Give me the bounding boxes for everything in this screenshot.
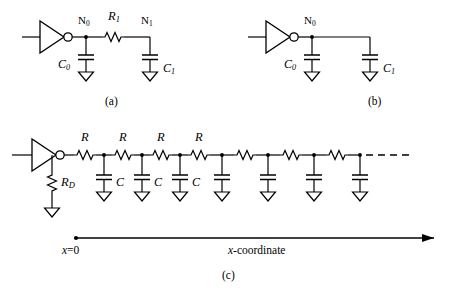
ladder-resistor-7: [326, 151, 348, 160]
ground-c1-a: [143, 72, 158, 81]
caption-a: (a): [105, 96, 118, 108]
ladder-ground-3: [173, 192, 188, 201]
ground-c0-a: [79, 72, 94, 81]
ladder-ground-4: [215, 192, 230, 201]
label-node-n0-a: N0: [78, 15, 90, 28]
ladder-capacitor-6: [306, 175, 322, 180]
ground-c1-b: [363, 72, 378, 81]
label-ladder-resistor-3: R: [157, 131, 165, 144]
label-capacitor-c0-a: C0: [58, 58, 70, 72]
label-ladder-resistor-2: R: [119, 131, 127, 144]
capacitor-c0-b: [304, 55, 320, 60]
capacitor-c1-b: [362, 55, 378, 60]
ladder-capacitor-4: [214, 175, 230, 180]
label-x-coordinate: x-coordinate: [228, 245, 285, 257]
ladder-ground-7: [353, 192, 368, 201]
resistor-r1-a: [102, 33, 124, 42]
subfigure-b: [248, 21, 378, 81]
ladder-capacitor-7: [352, 175, 368, 180]
label-ladder-resistor-4: R: [195, 131, 203, 144]
inverter-a: [40, 21, 72, 53]
ladder-ground-6: [307, 192, 322, 201]
label-ladder-capacitor-3: C: [192, 176, 200, 188]
ladder-resistor-3: [150, 151, 172, 160]
subfigure-a: [22, 21, 158, 81]
label-capacitor-c1-a: C1: [163, 62, 175, 76]
label-resistor-r1-a: R1: [108, 10, 120, 24]
ladder-ground-2: [135, 192, 150, 201]
caption-c: (c): [222, 270, 235, 282]
ladder-resistor-5: [234, 151, 256, 160]
caption-b: (b): [368, 96, 381, 108]
label-node-n1-a: N1: [141, 15, 153, 28]
inverter-c: [32, 139, 64, 171]
ladder-ground-5: [261, 192, 276, 201]
label-node-n0-b: N0: [304, 15, 316, 28]
inverter-b: [266, 21, 298, 53]
ladder-capacitor-2: [134, 175, 150, 180]
ladder-resistor-6: [280, 151, 302, 160]
label-capacitor-c1-b: C1: [383, 62, 395, 76]
x-axis-arrowhead: [422, 234, 434, 242]
ground-c0-b: [305, 72, 320, 81]
capacitor-c1-a: [142, 55, 158, 60]
label-ladder-capacitor-1: C: [116, 176, 124, 188]
capacitor-c0-a: [78, 55, 94, 60]
ladder-ground-1: [97, 192, 112, 201]
ladder-resistor-1: [74, 151, 96, 160]
ladder-resistor-4: [188, 151, 210, 160]
subfigure-c: [12, 139, 434, 242]
label-axis-origin: x=0: [62, 245, 79, 257]
label-capacitor-c0-b: C0: [284, 58, 296, 72]
ladder-capacitor-5: [260, 175, 276, 180]
label-ladder-capacitor-2: C: [154, 176, 162, 188]
resistor-rd-c: [48, 172, 57, 194]
ladder-resistor-2: [112, 151, 134, 160]
ladder-capacitor-1: [96, 175, 112, 180]
ground-rd-c: [45, 208, 60, 217]
ladder-capacitor-3: [172, 175, 188, 180]
label-ladder-resistor-1: R: [81, 131, 89, 144]
label-resistor-rd-c: RD: [61, 176, 75, 190]
circuit-figure: N0 R1 N1 C0 C1 (a) N0 C0 C1 (b) RD R R R…: [0, 0, 459, 291]
